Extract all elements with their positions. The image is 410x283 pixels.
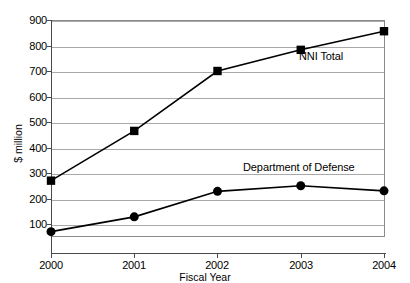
y-tick-mark [47,97,52,98]
y-tick-mark [47,173,52,174]
x-tick-label: 2004 [354,259,410,271]
y-tick-label: 600 [3,91,47,102]
y-tick-mark [47,122,52,123]
gridline [52,21,384,22]
y-tick-mark [47,20,52,21]
x-axis-line [51,253,386,254]
gridline [52,47,384,48]
x-tick-mark [134,253,135,258]
x-tick-mark [51,253,52,258]
gridline [52,200,384,201]
y-tick-label: 300 [3,168,47,179]
x-tick-mark [217,253,218,258]
gridline [52,174,384,175]
chart-figure: 900 800 700 600 500 400 300 200 100 $ mi… [0,0,410,283]
y-tick-mark [47,224,52,225]
x-axis-title: Fiscal Year [0,272,410,283]
x-tick-label: 2000 [21,259,81,271]
y-tick-label: 100 [3,219,47,230]
y-tick-mark [47,148,52,149]
y-tick-label: 700 [3,66,47,77]
gridline [52,123,384,124]
x-tick-label: 2003 [271,259,331,271]
y-tick-mark [47,199,52,200]
y-axis-line [51,20,52,253]
y-tick-mark [47,71,52,72]
y-tick-label: 500 [3,117,47,128]
series-annotation-nni-total: NNI Total [299,50,343,62]
gridline [52,149,384,150]
gridline [52,72,384,73]
y-tick-mark [47,46,52,47]
gridline [52,225,384,226]
x-tick-label: 2001 [104,259,164,271]
y-tick-label: 900 [3,15,47,26]
y-tick-label: 200 [3,193,47,204]
y-axis-tick-labels: 900 800 700 600 500 400 300 200 100 [0,0,47,283]
x-tick-mark [301,253,302,258]
gridline [52,98,384,99]
y-axis-title: $ million [13,109,24,179]
y-tick-label: 800 [3,40,47,51]
x-tick-label: 2002 [187,259,247,271]
y-tick-label: 400 [3,142,47,153]
x-tick-mark [384,253,385,258]
series-annotation-department-of-defense: Department of Defense [243,161,355,173]
